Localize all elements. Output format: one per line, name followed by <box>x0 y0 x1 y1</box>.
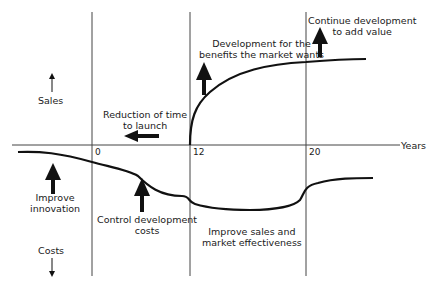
tick-0: 0 <box>95 147 101 157</box>
tick-12: 12 <box>193 147 204 157</box>
innovation-annotation: Improve innovation <box>30 192 80 214</box>
tick-20: 20 <box>309 147 320 157</box>
control-annotation: Control development costs <box>97 214 197 236</box>
continue-annotation: Continue development to add value <box>308 15 416 37</box>
x-axis-label: Years <box>401 140 426 151</box>
control-costs-arrow-icon <box>134 178 150 196</box>
reduction-arrow-icon <box>124 130 138 142</box>
improve-sales-annotation: Improve sales and market effectiveness <box>202 226 302 248</box>
development-arrow-icon <box>196 62 212 80</box>
development-annotation: Development for the benefits the market … <box>199 38 324 60</box>
sales-label: Sales <box>38 95 63 106</box>
reduction-annotation: Reduction of time to launch <box>103 109 187 131</box>
sales-curve <box>190 59 366 145</box>
costs-label: Costs <box>38 245 64 256</box>
improve-innovation-arrow-icon <box>45 163 61 180</box>
